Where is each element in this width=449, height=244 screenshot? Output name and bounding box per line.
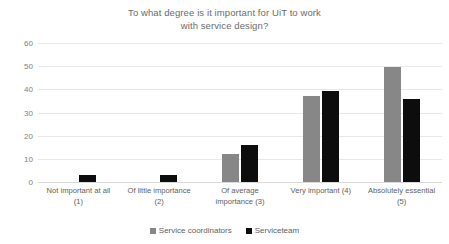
y-axis-tick-label: 30	[24, 108, 33, 117]
bar-group	[280, 43, 361, 182]
bar-group	[361, 43, 442, 182]
x-axis-category-label-line: Not important at all	[38, 186, 119, 197]
x-axis-category-label-line: (5)	[361, 197, 442, 208]
bar-serviceteam	[322, 91, 339, 183]
legend-item[interactable]: Serviceteam	[246, 226, 299, 235]
bar-chart: To what degree is it important for UiT t…	[0, 0, 449, 244]
bar-serviceteam	[79, 175, 96, 182]
bar-service-coordinators	[222, 154, 239, 182]
y-axis-tick-label: 10	[24, 154, 33, 163]
x-axis-category-label: Absolutely essential(5)	[361, 186, 442, 207]
legend-item[interactable]: Service coordinators	[150, 226, 232, 235]
x-axis-category-label: Very important (4)	[280, 186, 361, 197]
legend-swatch-icon	[150, 228, 156, 234]
x-axis-category-label: Not important at all(1)	[38, 186, 119, 207]
chart-title-line-2: with service design?	[0, 19, 449, 32]
axis-baseline	[38, 182, 442, 183]
plot-area: 0102030405060	[38, 43, 442, 182]
x-axis-labels: Not important at all(1)Of little importa…	[38, 186, 442, 216]
x-axis-category-label-line: Absolutely essential	[361, 186, 442, 197]
chart-title: To what degree is it important for UiT t…	[0, 6, 449, 32]
y-axis-tick-label: 20	[24, 131, 33, 140]
bar-group	[119, 43, 200, 182]
x-axis-category-label-line: Of average	[200, 186, 281, 197]
x-axis-category-label-line: importance (3)	[200, 197, 281, 208]
legend-swatch-icon	[246, 228, 252, 234]
bar-service-coordinators	[384, 67, 401, 182]
y-axis-tick-label: 50	[24, 62, 33, 71]
x-axis-category-label-line: Very important (4)	[280, 186, 361, 197]
bar-service-coordinators	[303, 96, 320, 182]
bar-serviceteam	[241, 145, 258, 182]
bar-group	[38, 43, 119, 182]
x-axis-category-label-line: Of little importance	[119, 186, 200, 197]
y-axis-tick-label: 60	[24, 39, 33, 48]
bar-group	[200, 43, 281, 182]
x-axis-category-label: Of little importance(2)	[119, 186, 200, 207]
legend-label: Serviceteam	[255, 226, 299, 235]
chart-legend: Service coordinatorsServiceteam	[0, 226, 449, 235]
x-axis-category-label-line: (1)	[38, 197, 119, 208]
bar-serviceteam	[160, 175, 177, 182]
y-axis-tick-label: 40	[24, 85, 33, 94]
y-axis-tick-label: 0	[29, 178, 33, 187]
chart-title-line-1: To what degree is it important for UiT t…	[0, 6, 449, 19]
bar-serviceteam	[403, 99, 420, 182]
legend-label: Service coordinators	[159, 226, 232, 235]
x-axis-category-label: Of averageimportance (3)	[200, 186, 281, 207]
x-axis-category-label-line: (2)	[119, 197, 200, 208]
